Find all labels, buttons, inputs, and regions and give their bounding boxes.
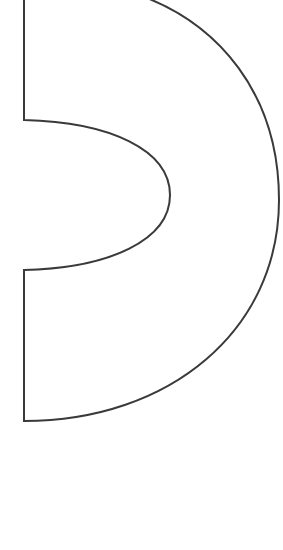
crescent-outline-path xyxy=(24,0,279,421)
crescent-outline-shape xyxy=(0,0,283,550)
drawing-canvas xyxy=(0,0,283,550)
